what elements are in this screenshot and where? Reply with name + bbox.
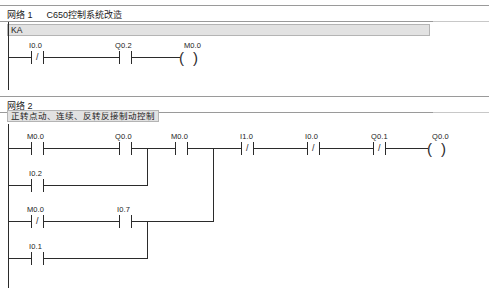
network-2-comment[interactable]: 正转点动、连续、反转反接制动控制 — [7, 110, 159, 122]
coil-label-m0-0: M0.0 — [184, 41, 201, 50]
contact-i1-0-nc[interactable]: / — [241, 142, 254, 155]
contact-label-m0-0-nc: M0.0 — [27, 205, 44, 214]
contact-left-bar — [31, 51, 32, 64]
contact-label-i0-7: I0.7 — [117, 205, 130, 214]
coil-close-paren: ) — [441, 140, 455, 157]
contact-left-bar — [373, 142, 374, 155]
coil-open-paren: ( — [427, 140, 441, 157]
branch-2-wire-a — [8, 185, 32, 186]
contact-q0-1-nc[interactable]: / — [373, 142, 386, 155]
contact-right-bar — [131, 142, 132, 155]
rung-2-wire-g — [386, 148, 428, 149]
contact-right-bar — [385, 142, 386, 155]
contact-right-bar — [187, 142, 188, 155]
contact-m0-0-no-r1b[interactable] — [175, 142, 188, 155]
contact-label-i1-0: I1.0 — [240, 132, 253, 141]
left-power-rail-1 — [8, 22, 9, 90]
contact-left-bar — [307, 142, 308, 155]
rung-2-wire-f — [320, 148, 374, 149]
contact-label-i0-1: I0.1 — [29, 242, 42, 251]
contact-right-bar — [131, 215, 132, 228]
network-1-comment[interactable]: KA — [7, 24, 430, 36]
rung-2-wire-d — [188, 148, 242, 149]
nc-slash-icon: / — [312, 143, 315, 154]
network-1-header-text: 网络 1C650控制系统改造 — [7, 8, 122, 21]
contact-left-bar — [119, 215, 120, 228]
contact-i0-0-nc-r2[interactable]: / — [307, 142, 320, 155]
network-1-label: 网络 1 — [7, 10, 33, 20]
network-1-title: C650控制系统改造 — [47, 10, 123, 20]
contact-right-bar — [131, 51, 132, 64]
branch-3-wire-b — [44, 221, 120, 222]
contact-left-bar — [241, 142, 242, 155]
branch-4-wire-a — [8, 258, 32, 259]
nc-slash-icon: / — [378, 143, 381, 154]
rung-1-wire-c — [132, 57, 180, 58]
branch-4-wire-b — [44, 258, 148, 259]
rung-2-wire-c — [132, 148, 176, 149]
contact-label-q0-2: Q0.2 — [115, 41, 132, 50]
rung-2-wire-b — [44, 148, 120, 149]
contact-q0-0-no[interactable] — [119, 142, 132, 155]
rung-1-wire-b — [44, 57, 120, 58]
branch-3-wire-a — [8, 221, 32, 222]
contact-left-bar — [175, 142, 176, 155]
coil-q0-0[interactable]: () — [427, 141, 453, 156]
contact-left-bar — [31, 252, 32, 265]
contact-label-m0-0-r1b: M0.0 — [171, 132, 188, 141]
contact-right-bar — [43, 51, 44, 64]
contact-i0-1-no[interactable] — [31, 252, 44, 265]
branch-4-vertical — [147, 221, 148, 259]
contact-left-bar — [31, 215, 32, 228]
contact-i0-2-no[interactable] — [31, 179, 44, 192]
contact-label-i0-2: I0.2 — [29, 169, 42, 178]
branch-3-wire-c — [132, 221, 214, 222]
contact-i0-7-no[interactable] — [119, 215, 132, 228]
branch-3-vertical — [213, 148, 214, 222]
branch-2-wire-b — [44, 185, 148, 186]
nc-slash-icon: / — [36, 52, 39, 63]
contact-right-bar — [43, 252, 44, 265]
rung-2-wire-a — [8, 148, 32, 149]
ladder-editor-canvas: 网络 1C650控制系统改造 KA / I0.0 Q0.2 () M0.0 网络… — [0, 0, 489, 288]
contact-right-bar — [319, 142, 320, 155]
contact-label-q0-0: Q0.0 — [115, 132, 132, 141]
network-1-header-rule — [0, 21, 433, 22]
coil-close-paren: ) — [193, 49, 207, 66]
contact-label-i0-0: I0.0 — [29, 41, 42, 50]
rung-2-wire-e — [254, 148, 308, 149]
contact-label-m0-0-r1: M0.0 — [27, 132, 44, 141]
contact-label-q0-1: Q0.1 — [371, 132, 388, 141]
coil-label-q0-0: Q0.0 — [432, 132, 449, 141]
contact-q0-2-no[interactable] — [119, 51, 132, 64]
contact-m0-0-nc[interactable]: / — [31, 215, 44, 228]
contact-m0-0-no-r1[interactable] — [31, 142, 44, 155]
contact-right-bar — [253, 142, 254, 155]
nc-slash-icon: / — [246, 143, 249, 154]
contact-i0-0-nc[interactable]: / — [31, 51, 44, 64]
contact-right-bar — [43, 179, 44, 192]
branch-2-vertical — [147, 148, 148, 186]
contact-label-i0-0-r2: I0.0 — [305, 132, 318, 141]
contact-left-bar — [31, 179, 32, 192]
contact-left-bar — [119, 51, 120, 64]
contact-right-bar — [43, 142, 44, 155]
contact-right-bar — [43, 215, 44, 228]
nc-slash-icon: / — [36, 216, 39, 227]
coil-m0-0[interactable]: () — [179, 50, 205, 65]
network-1-header[interactable]: 网络 1C650控制系统改造 — [0, 5, 489, 22]
coil-open-paren: ( — [179, 49, 193, 66]
contact-left-bar — [119, 142, 120, 155]
contact-left-bar — [31, 142, 32, 155]
rung-1-wire-a — [8, 57, 32, 58]
